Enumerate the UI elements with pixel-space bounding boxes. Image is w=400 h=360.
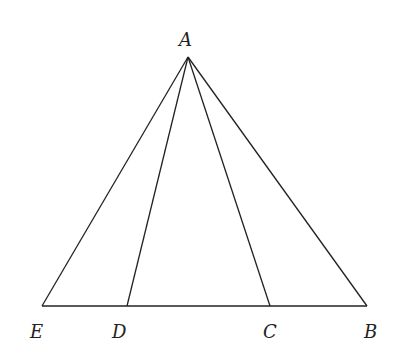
segment-AC [188, 57, 270, 306]
segment-AE [42, 57, 188, 306]
geometry-diagram: A E D C B [0, 0, 400, 360]
segment-AB [188, 57, 367, 306]
point-label-D: D [111, 321, 127, 342]
segment-AD [127, 57, 188, 306]
point-label-B: B [363, 321, 377, 342]
point-label-C: C [263, 321, 277, 342]
point-label-E: E [29, 321, 43, 342]
point-label-A: A [177, 29, 192, 50]
